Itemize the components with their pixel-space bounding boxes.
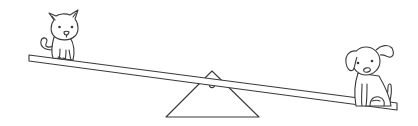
dog-eye xyxy=(357,62,360,65)
dog-eye xyxy=(371,60,374,63)
seesaw-illustration xyxy=(0,0,418,126)
cat-eye xyxy=(71,26,74,29)
cat-figure xyxy=(41,10,78,60)
cat-eye xyxy=(58,26,61,29)
